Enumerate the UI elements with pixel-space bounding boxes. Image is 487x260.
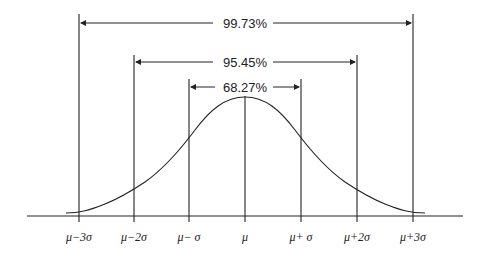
axis-label: μ+ σ xyxy=(288,230,313,244)
interval-label-1sigma: 68.27% xyxy=(223,80,268,95)
axis-label: μ xyxy=(241,230,248,244)
axis-label: μ+3σ xyxy=(399,230,427,244)
sigma-lines xyxy=(79,14,413,222)
axis-label: μ+2σ xyxy=(343,230,371,244)
normal-distribution-diagram: 99.73% 95.45% 68.27% μ−3σ μ−2σ μ− σ μ μ+… xyxy=(0,0,487,260)
axis-label: μ−3σ xyxy=(65,230,93,244)
axis-label: μ−2σ xyxy=(120,230,148,244)
axis-label: μ− σ xyxy=(176,230,201,244)
interval-label-3sigma: 99.73% xyxy=(223,16,268,31)
interval-label-2sigma: 95.45% xyxy=(223,55,268,70)
